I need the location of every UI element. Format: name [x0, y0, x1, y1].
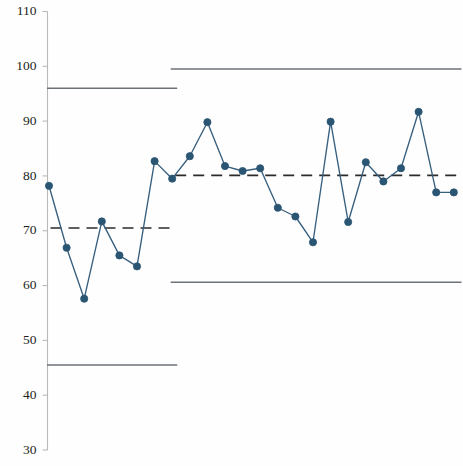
- y-axis: 11010090807060504030: [16, 3, 47, 457]
- data-point-marker[interactable]: [257, 165, 264, 172]
- y-axis-tick-label: 110: [17, 3, 37, 18]
- series-marker-group: [45, 108, 457, 302]
- y-axis-tick-label: 50: [23, 332, 37, 347]
- data-point-marker[interactable]: [274, 204, 281, 211]
- data-point-marker[interactable]: [133, 263, 140, 270]
- data-point-marker[interactable]: [415, 108, 422, 115]
- data-point-marker[interactable]: [151, 158, 158, 165]
- data-point-marker[interactable]: [450, 189, 457, 196]
- data-point-marker[interactable]: [169, 175, 176, 182]
- series-polyline: [49, 112, 454, 299]
- control-chart: 11010090807060504030: [0, 0, 463, 466]
- y-axis-tick-label: 60: [23, 277, 37, 292]
- control-limit-lines: [47, 69, 462, 365]
- data-point-marker[interactable]: [292, 213, 299, 220]
- data-point-marker[interactable]: [397, 165, 404, 172]
- data-point-marker[interactable]: [63, 244, 70, 251]
- data-point-marker[interactable]: [186, 153, 193, 160]
- center-lines: [51, 175, 462, 228]
- data-point-marker[interactable]: [204, 119, 211, 126]
- data-point-marker[interactable]: [221, 162, 228, 169]
- data-point-marker[interactable]: [380, 178, 387, 185]
- data-point-marker[interactable]: [116, 252, 123, 259]
- series-line-group: [49, 112, 454, 299]
- data-point-marker[interactable]: [327, 118, 334, 125]
- y-axis-tick-label: 80: [23, 168, 37, 183]
- data-point-marker[interactable]: [81, 295, 88, 302]
- data-point-marker[interactable]: [345, 218, 352, 225]
- y-axis-tick-label: 30: [23, 442, 37, 457]
- y-axis-tick-label: 40: [23, 387, 37, 402]
- data-point-marker[interactable]: [362, 159, 369, 166]
- data-point-marker[interactable]: [309, 239, 316, 246]
- y-axis-tick-label: 100: [16, 58, 37, 73]
- y-axis-tick-label: 70: [23, 222, 37, 237]
- data-point-marker[interactable]: [433, 189, 440, 196]
- data-point-marker[interactable]: [98, 218, 105, 225]
- control-chart-svg: 11010090807060504030: [0, 0, 463, 466]
- y-axis-tick-label: 90: [23, 113, 37, 128]
- data-point-marker[interactable]: [239, 167, 246, 174]
- data-point-marker[interactable]: [45, 182, 52, 189]
